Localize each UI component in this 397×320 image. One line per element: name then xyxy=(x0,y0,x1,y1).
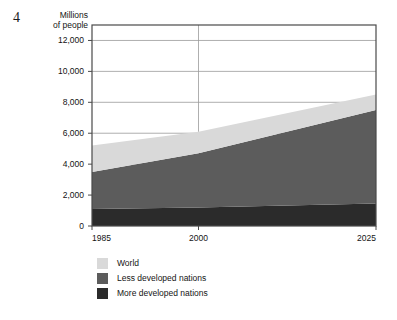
y-tick-label: 4,000 xyxy=(63,159,85,169)
legend-swatch-world xyxy=(97,258,108,269)
legend-item-more-developed-nations: More developed nations xyxy=(97,286,208,301)
y-tick-label: 10,000 xyxy=(58,66,84,76)
x-tick-label: 2025 xyxy=(357,233,376,243)
legend-swatch-less-developed-nations xyxy=(97,273,108,284)
y-tick-label: 2,000 xyxy=(63,190,85,200)
y-tick-label: 6,000 xyxy=(63,128,85,138)
y-tick-label: 8,000 xyxy=(63,97,85,107)
y-tick-label: 0 xyxy=(79,221,84,231)
y-axis-ticks: 02,0004,0006,0008,00010,00012,000 xyxy=(58,35,92,231)
legend-label-world: World xyxy=(117,258,139,269)
y-tick-label: 12,000 xyxy=(58,35,84,45)
x-axis-ticks: 198520002025 xyxy=(92,226,376,243)
legend-label-less-developed-nations: Less developed nations xyxy=(117,273,206,284)
x-tick-label: 1985 xyxy=(92,233,111,243)
legend-item-less-developed-nations: Less developed nations xyxy=(97,271,208,286)
x-tick-label: 2000 xyxy=(189,233,208,243)
legend-item-world: World xyxy=(97,256,208,271)
figure-container: 4 Millions of people 02,0004,0006,0008,0… xyxy=(0,0,397,320)
chart-legend: World Less developed nations More develo… xyxy=(97,256,208,301)
legend-label-more-developed-nations: More developed nations xyxy=(117,288,208,299)
legend-swatch-more-developed-nations xyxy=(97,288,108,299)
